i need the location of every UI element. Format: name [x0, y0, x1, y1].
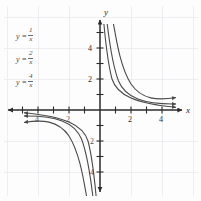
x-axis-left-arrow — [8, 108, 13, 113]
y-axis-bottom-arrow — [98, 187, 103, 192]
curve-y-2-over-x-quadrant-3 — [24, 116, 93, 196]
fraction-1: 1x — [28, 27, 34, 43]
x-tick-label-neg2: 2 — [66, 115, 70, 124]
equation-lhs-3: y = — [16, 78, 27, 87]
equation-lhs-1: y = — [16, 32, 27, 41]
curve-y-1-over-x-quadrant-1 — [104, 24, 176, 107]
equation-label-y-4-over-x: y =4x — [16, 71, 33, 89]
equation-label-y-2-over-x: y =2x — [16, 48, 33, 66]
equation-label-y-1-over-x: y =1x — [16, 25, 33, 43]
fraction-numerator-3: 4 — [28, 73, 34, 80]
x-tick-label-4: 4 — [159, 115, 163, 124]
equation-lhs-2: y = — [16, 55, 27, 64]
fraction-denominator-3: x — [28, 81, 34, 89]
y-axis-label: y — [103, 7, 108, 17]
graph-figure: y x 2 4 2 4 4 2 2 4 y =1x y =2x y =4x — [0, 0, 201, 201]
x-axis-label: x — [185, 105, 190, 115]
fraction-denominator-1: x — [28, 35, 34, 43]
fraction-3: 4x — [28, 73, 34, 89]
x-tick-label-neg4: 4 — [35, 115, 39, 124]
curve-y-1-over-x-quadrant-3 — [24, 113, 96, 196]
fraction-numerator-2: 2 — [28, 50, 34, 57]
curve-y-2-over-x-quadrant-1 — [107, 24, 176, 104]
fraction-2: 2x — [28, 50, 34, 66]
y-tick-label-2: 2 — [88, 75, 92, 84]
x-tick-label-2: 2 — [128, 115, 132, 124]
y-tick-label-neg4: 4 — [90, 168, 94, 177]
y-tick-label-4: 4 — [88, 44, 92, 53]
y-tick-label-neg2: 2 — [90, 137, 94, 146]
fraction-denominator-2: x — [28, 58, 34, 66]
fraction-numerator-1: 1 — [28, 27, 34, 34]
